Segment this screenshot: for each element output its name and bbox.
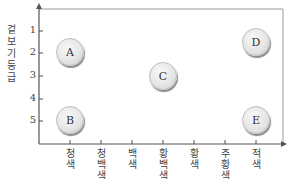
x-tick-blue-white: 청백색 [95, 148, 107, 179]
star-e-marker: E [242, 106, 270, 134]
x-axis-arrow-icon [281, 141, 287, 147]
star-d-marker: D [242, 28, 270, 56]
star-a-marker: A [56, 38, 84, 66]
x-tick-yellow: 황색 [188, 148, 200, 170]
y-tick-4: 4 [24, 92, 36, 103]
x-tick-yellow-white: 황백색 [157, 148, 169, 179]
y-tick-2: 2 [24, 46, 36, 57]
star-c-marker: C [149, 62, 177, 90]
x-tick-white: 백색 [126, 148, 138, 170]
y-axis-arrow-icon [36, 3, 42, 9]
x-tick-red: 적색 [250, 148, 262, 170]
x-tick-blue: 청색 [64, 148, 76, 170]
y-axis-label: 겉보기 등급 [4, 24, 18, 84]
y-tick-3: 3 [24, 69, 36, 80]
x-tick-orange: 주황색 [219, 148, 231, 179]
star-b-marker: B [56, 106, 84, 134]
y-tick-5: 5 [24, 114, 36, 125]
chart-axes [0, 0, 287, 179]
y-tick-1: 1 [24, 24, 36, 35]
